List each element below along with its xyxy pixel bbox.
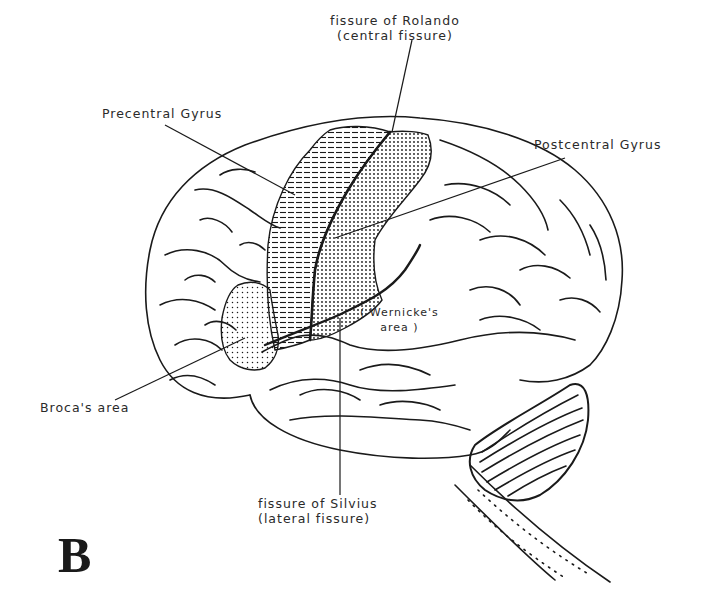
label-silvius-line1: fissure of Silvius — [258, 496, 378, 511]
brainstem-outline — [470, 465, 610, 582]
label-precentral-gyrus: Precentral Gyrus — [102, 106, 222, 121]
label-rolando-line2: (central fissure) — [330, 28, 460, 43]
brocas-area-region — [221, 282, 278, 370]
label-wernickes-area: ( Wernicke's area ) — [360, 305, 439, 335]
panel-letter: B — [58, 530, 91, 580]
label-rolando-line1: fissure of Rolando — [330, 13, 460, 28]
label-wernicke-line2: area ) — [360, 320, 439, 335]
label-fissure-of-rolando: fissure of Rolando (central fissure) — [330, 13, 460, 43]
label-brocas-area: Broca's area — [40, 400, 129, 415]
leader-broca — [115, 338, 245, 400]
leader-rolando — [392, 40, 412, 132]
label-fissure-of-silvius: fissure of Silvius (lateral fissure) — [258, 496, 378, 526]
label-postcentral-gyrus: Postcentral Gyrus — [534, 137, 661, 152]
label-silvius-line2: (lateral fissure) — [258, 511, 378, 526]
label-wernicke-line1: ( Wernicke's — [360, 305, 439, 320]
brain-diagram: fissure of Rolando (central fissure) Pre… — [0, 0, 711, 607]
